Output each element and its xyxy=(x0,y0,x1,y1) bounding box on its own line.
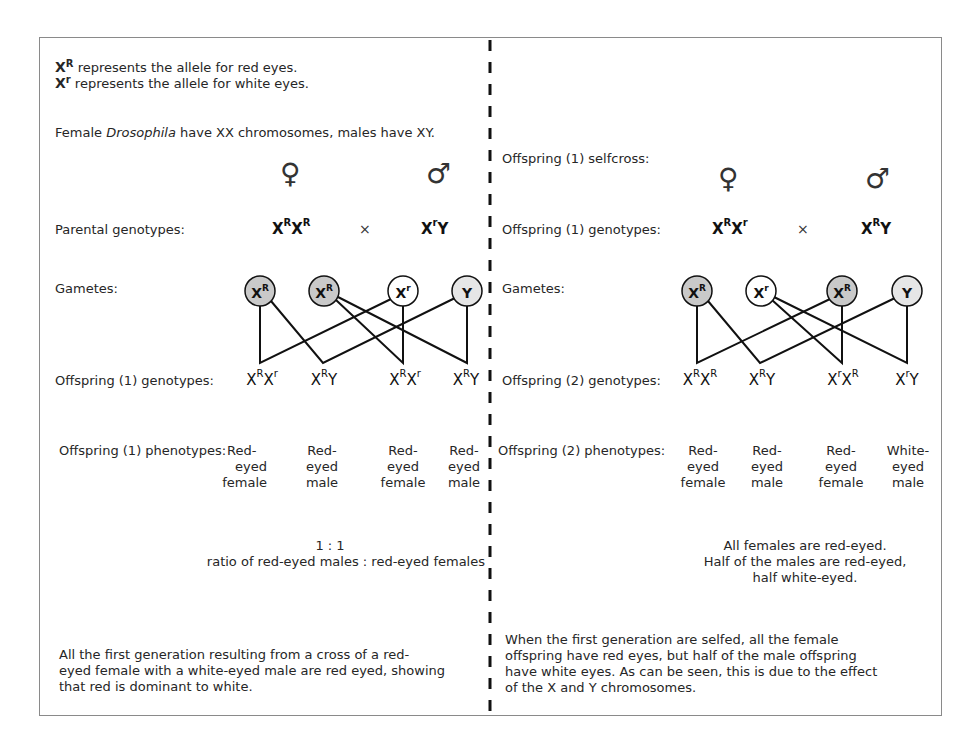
phenotype-white-eyed-male: White-eyedmale xyxy=(882,443,934,491)
offspring-genotype: XrXR xyxy=(827,371,859,389)
offspring2-genotypes-label: Offspring (2) genotypes: xyxy=(502,373,661,389)
offspring-genotype: XRY xyxy=(749,371,775,389)
cross-symbol: × xyxy=(359,221,371,237)
offspring-genotype: XRXr xyxy=(389,371,421,389)
offspring-genotype: XRY xyxy=(453,371,479,389)
offspring-phenotypes-label: Offspring (1) phenotypes: xyxy=(59,443,226,459)
ratio-value: 1 : 1 xyxy=(170,538,490,554)
left-summary: All the first generation resulting from … xyxy=(59,647,445,695)
phenotype-red-eyed-male: Red-eyedmale xyxy=(747,443,787,491)
intro-text: Female Drosophila have XX chromosomes, m… xyxy=(55,125,435,141)
gamete-label: Y xyxy=(462,285,472,301)
gamete-label: Xr xyxy=(753,285,768,301)
offspring-genotype: XRXr xyxy=(246,371,278,389)
phenotype-red-eyed-female: Red-eyedfemale xyxy=(222,443,267,491)
female-symbol-icon: ♀ xyxy=(718,165,739,193)
gamete-label: XR xyxy=(688,285,706,301)
gamete-label: Xr xyxy=(395,285,410,301)
phenotype-red-eyed-female: Red-eyedfemale xyxy=(816,443,866,491)
offspring-genotype: XRY xyxy=(311,371,337,389)
offspring2-phenotypes-label: Offspring (2) phenotypes: xyxy=(498,443,665,459)
allele-symbol: XR xyxy=(55,59,74,75)
phenotype-red-eyed-male: Red-eyedmale xyxy=(444,443,484,491)
gamete-label: XR xyxy=(251,285,269,301)
female-symbol-icon: ♀ xyxy=(280,160,301,188)
phenotype-red-eyed-female: Red-eyedfemale xyxy=(378,443,428,491)
left-gamete-lines xyxy=(260,297,467,363)
offspring-genotypes-label: Offspring (1) genotypes: xyxy=(55,373,214,389)
parental-female-genotype: XRXR xyxy=(272,220,311,238)
selfcross-male-genotype: XRY xyxy=(861,220,891,238)
cross-symbol: × xyxy=(797,221,809,237)
ratio-description: ratio of red-eyed males : red-eyed femal… xyxy=(160,554,485,570)
right-conclusion: All females are red-eyed. Half of the ma… xyxy=(680,538,930,586)
selfcross-label: Offspring (1) selfcross: xyxy=(502,151,649,167)
legend-white-allele: Xr represents the allele for white eyes. xyxy=(55,75,309,92)
parental-male-genotype: XrY xyxy=(421,220,448,238)
offspring1-genotypes-label: Offspring (1) genotypes: xyxy=(502,222,661,238)
gamete-label: XR xyxy=(315,285,333,301)
phenotype-red-eyed-female: Red-eyedfemale xyxy=(678,443,728,491)
parental-genotypes-label: Parental genotypes: xyxy=(55,222,185,238)
male-symbol-icon: ♂ xyxy=(865,165,890,193)
gamete-label: Y xyxy=(902,285,912,301)
gamete-label: XR xyxy=(833,285,851,301)
cross-diagram-lines xyxy=(0,0,975,729)
legend-red-allele: XR represents the allele for red eyes. xyxy=(55,59,297,76)
selfcross-female-genotype: XRXr xyxy=(712,220,748,238)
allele-symbol: Xr xyxy=(55,75,71,91)
male-symbol-icon: ♂ xyxy=(426,160,451,188)
offspring-genotype: XrY xyxy=(895,371,919,389)
offspring-genotype: XRXR xyxy=(683,371,717,389)
phenotype-red-eyed-male: Red-eyedmale xyxy=(302,443,342,491)
right-summary: When the first generation are selfed, al… xyxy=(505,632,877,696)
gametes-label: Gametes: xyxy=(55,281,118,297)
right-gamete-lines xyxy=(697,297,907,363)
gametes-label: Gametes: xyxy=(502,281,565,297)
